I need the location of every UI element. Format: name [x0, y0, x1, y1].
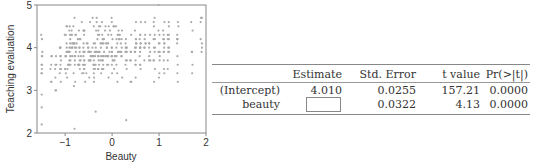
top-rule — [212, 64, 530, 65]
row-intercept-std-error: 0.0255 — [378, 84, 417, 97]
row-beauty-label: beauty — [242, 98, 280, 111]
header-p-value: Pr(>|t|) — [486, 68, 528, 81]
row-beauty-t-value: 4.13 — [456, 98, 481, 111]
row-intercept-p-value: 0.0000 — [490, 84, 529, 97]
data-points — [40, 4, 203, 130]
svg-text:4: 4 — [26, 42, 32, 53]
row-intercept-label: (Intercept) — [220, 84, 280, 97]
x-axis-ticks: −1012 — [59, 133, 209, 148]
svg-text:0: 0 — [109, 137, 115, 148]
bottom-rule — [212, 114, 530, 115]
scatter-plot: −1012 2345 Beauty Teaching evaluation — [0, 0, 212, 166]
y-axis-ticks: 2345 — [26, 0, 37, 139]
row-intercept-t-value: 157.21 — [442, 84, 481, 97]
plot-frame — [37, 5, 206, 133]
header-rule — [212, 82, 530, 83]
header-estimate: Estimate — [292, 68, 342, 81]
svg-text:2: 2 — [26, 128, 32, 139]
svg-text:2: 2 — [203, 137, 209, 148]
header-t-value: t value — [442, 68, 480, 81]
svg-text:3: 3 — [26, 85, 32, 96]
svg-text:1: 1 — [156, 137, 162, 148]
row-intercept-estimate: 4.010 — [311, 84, 343, 97]
x-axis-label: Beauty — [105, 151, 136, 162]
row-beauty-std-error: 0.0322 — [378, 98, 417, 111]
svg-text:−1: −1 — [59, 137, 71, 148]
svg-text:5: 5 — [26, 0, 32, 11]
beauty-estimate-blank-box — [306, 97, 341, 112]
row-beauty-p-value: 0.0000 — [490, 98, 529, 111]
header-std-error: Std. Error — [360, 68, 416, 81]
y-axis-label: Teaching evaluation — [5, 25, 16, 113]
